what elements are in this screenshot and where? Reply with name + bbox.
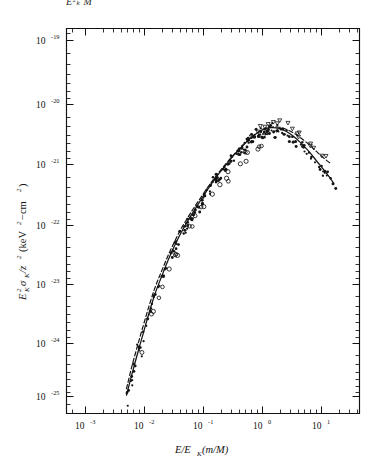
- data-point-filled: [291, 136, 293, 138]
- axis-frame: [67, 29, 360, 414]
- data-point-filled: [301, 141, 303, 143]
- figure-container: E²ₖ M: [0, 0, 379, 467]
- data-point-filled: [310, 158, 312, 160]
- y-axis-title-slash-z: /z: [17, 266, 28, 274]
- data-point-filled: [230, 155, 233, 158]
- data-point-filled: [241, 146, 243, 148]
- data-point-filled: [172, 250, 175, 253]
- data-point-filled: [150, 307, 153, 310]
- data-point-open-circle: [244, 159, 248, 163]
- y-tick-mantissa: 10: [36, 160, 46, 170]
- y-tick-label-2: 10 -21: [36, 157, 60, 170]
- data-point-filled: [302, 146, 305, 149]
- x-tick-label-1: 10 -2: [134, 418, 154, 431]
- data-point-filled: [202, 197, 204, 199]
- data-point-filled: [143, 340, 145, 342]
- data-point-filled: [332, 182, 335, 185]
- data-point-filled: [178, 230, 181, 233]
- data-point-filled: [185, 232, 187, 234]
- data-point-filled: [161, 275, 163, 277]
- y-axis-minor-ticks: [67, 34, 71, 405]
- data-point-filled: [260, 136, 263, 139]
- data-point-filled: [308, 152, 310, 154]
- x-tick-mantissa: 10: [193, 421, 203, 431]
- x-tick-label-3: 10 0: [253, 418, 271, 431]
- x-tick-mantissa: 10: [134, 421, 144, 431]
- data-point-filled: [266, 133, 268, 135]
- data-point-filled: [319, 168, 322, 171]
- data-point-open-circle: [161, 285, 165, 289]
- data-point-filled: [306, 153, 308, 155]
- y-axis-title: E 2 K σ K /z 2 (keV 2 −cm 2 ): [15, 183, 31, 301]
- data-point-filled: [236, 149, 239, 152]
- data-point-filled: [292, 140, 295, 143]
- data-point-filled: [240, 151, 243, 154]
- data-point-filled: [266, 130, 269, 133]
- y-tick-mantissa: 10: [36, 100, 46, 110]
- y-tick-label-4: 10 -23: [36, 277, 60, 290]
- x-axis-title-main: E/E: [174, 444, 191, 455]
- x-axis-title-paren: (m/M): [202, 444, 229, 456]
- y-axis-title-unit-tail: −cm: [17, 201, 28, 220]
- y-tick-label-0: 10 -19: [36, 33, 60, 46]
- data-point-open-circle: [202, 205, 206, 209]
- data-point-filled: [183, 229, 186, 232]
- data-point-filled: [186, 218, 189, 221]
- y-axis-title-unit-open: (keV: [17, 231, 29, 252]
- data-point-filled: [194, 211, 197, 214]
- y-axis-title-unit-tail-sup: 2: [15, 188, 23, 192]
- data-point-filled: [220, 177, 223, 180]
- data-point-filled: [273, 137, 275, 139]
- log-log-scatter-chart: 10 -19 10 -20 10 -21 10 -22 10 -23 10 -2…: [0, 0, 379, 467]
- data-point-filled: [273, 130, 275, 132]
- x-tick-exponent: -1: [208, 418, 213, 425]
- y-axis-title-sigma: σ: [17, 280, 28, 286]
- data-point-filled: [281, 132, 283, 134]
- x-tick-exponent: 0: [268, 418, 271, 425]
- y-tick-label-3: 10 -22: [36, 218, 60, 231]
- x-tick-mantissa: 10: [75, 421, 85, 431]
- y-tick-exponent: -25: [51, 389, 60, 396]
- y-axis-title-unit-sup: 2: [15, 221, 23, 225]
- x-tick-mantissa: 10: [312, 421, 322, 431]
- data-point-filled: [286, 129, 288, 131]
- y-axis-title-E-sub: K: [23, 287, 31, 293]
- x-tick-mantissa: 10: [253, 421, 263, 431]
- y-tick-exponent: -24: [51, 336, 60, 343]
- y-tick-label-5: 10 -24: [36, 336, 60, 349]
- data-point-filled: [251, 140, 254, 143]
- y-tick-label-1: 10 -20: [36, 97, 60, 110]
- data-point-open-triangle: [275, 122, 279, 126]
- data-point-filled: [209, 183, 212, 186]
- y-axis-major-ticks: [67, 41, 74, 397]
- data-point-filled: [136, 343, 138, 345]
- data-point-filled: [131, 379, 133, 381]
- x-tick-exponent: -3: [90, 418, 95, 425]
- x-tick-exponent: -2: [149, 418, 154, 425]
- data-point-open-circle: [218, 182, 222, 186]
- data-point-filled: [277, 130, 279, 132]
- data-point-filled: [203, 193, 206, 196]
- measured-open-circle-group: [140, 144, 263, 354]
- theory-curves: [126, 127, 333, 395]
- y-tick-label-6: 10 -25: [36, 389, 60, 402]
- x-axis-title: E/E K (m/M): [174, 444, 229, 458]
- x-tick-label-0: 10 -3: [75, 418, 95, 431]
- data-point-filled: [126, 392, 128, 394]
- data-point-filled: [247, 137, 250, 140]
- y-tick-mantissa: 10: [36, 221, 46, 231]
- data-point-filled: [151, 303, 153, 305]
- data-point-filled: [216, 176, 219, 179]
- data-point-filled: [127, 389, 130, 392]
- data-point-filled: [157, 286, 160, 289]
- data-point-filled: [230, 160, 232, 162]
- data-point-filled: [127, 405, 129, 407]
- data-point-filled: [318, 166, 320, 168]
- data-point-filled: [254, 135, 256, 137]
- y-tick-exponent: -22: [51, 218, 60, 225]
- data-point-filled: [248, 139, 250, 141]
- y-tick-mantissa: 10: [36, 339, 46, 349]
- data-point-filled: [186, 221, 189, 224]
- data-point-filled: [246, 146, 249, 149]
- data-point-filled: [303, 150, 305, 152]
